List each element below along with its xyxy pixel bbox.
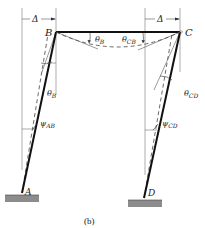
figure-caption: (b) (84, 216, 95, 226)
delta-label-left: Δ (31, 14, 39, 24)
undeformed-column-ab (22, 34, 48, 193)
node-label-d: D (147, 188, 155, 198)
psi-cd-arc (153, 124, 158, 130)
tangent-line-c-column (154, 32, 180, 90)
theta-b-column-label: θB (47, 89, 57, 99)
delta-dimension-right: Δ (145, 14, 180, 24)
node-label-c: C (185, 27, 193, 38)
frame-deflection-diagram: Δ Δ B C A D θB θCB θB θCD ψAB ψCD (0, 0, 205, 228)
theta-cd-label: θCD (184, 89, 198, 99)
fixed-support-a (5, 195, 39, 202)
theta-b-beam-label: θB (95, 35, 105, 45)
psi-ab-label: ψAB (40, 119, 56, 129)
psi-cd-label: ψCD (162, 119, 178, 129)
theta-cb-label: θCB (122, 35, 136, 45)
delta-dimension-left: Δ (22, 14, 56, 24)
node-label-b: B (44, 27, 52, 38)
delta-label-right: Δ (156, 14, 164, 24)
column-ab (22, 32, 56, 193)
fixed-support-d (128, 200, 162, 207)
column-cd (144, 32, 180, 198)
